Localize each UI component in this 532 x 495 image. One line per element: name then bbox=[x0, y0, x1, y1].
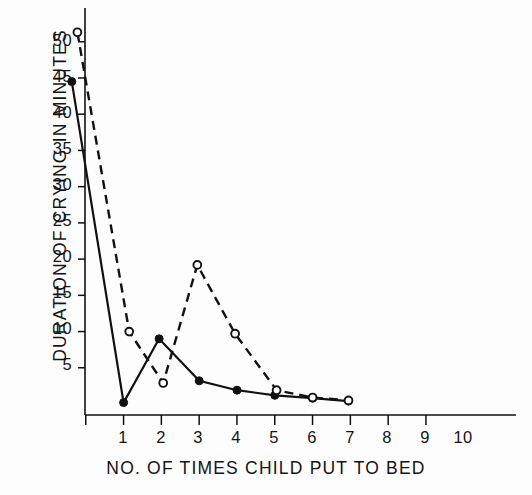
data-series-layer bbox=[68, 28, 353, 406]
y-axis-ticks bbox=[78, 42, 85, 368]
data-point-solid-filled-circles-2 bbox=[155, 335, 163, 343]
data-point-dashed-open-circles-2 bbox=[159, 379, 167, 387]
data-point-dashed-open-circles-4 bbox=[231, 330, 239, 338]
data-point-dashed-open-circles-1 bbox=[125, 328, 133, 336]
data-point-dashed-open-circles-0 bbox=[74, 28, 82, 36]
data-point-dashed-open-circles-7 bbox=[345, 397, 353, 405]
plot-area bbox=[0, 0, 532, 495]
chart-figure: DURATION OF CRYING IN MINUTES NO. OF TIM… bbox=[0, 0, 532, 495]
data-point-solid-filled-circles-4 bbox=[233, 386, 241, 394]
x-axis-ticks bbox=[86, 415, 426, 425]
data-point-solid-filled-circles-1 bbox=[120, 399, 128, 407]
data-point-solid-filled-circles-3 bbox=[195, 377, 203, 385]
data-point-dashed-open-circles-6 bbox=[309, 394, 317, 402]
series-line-dashed-open-circles bbox=[77, 32, 348, 400]
data-point-dashed-open-circles-5 bbox=[273, 386, 281, 394]
data-point-dashed-open-circles-3 bbox=[193, 261, 201, 269]
data-point-solid-filled-circles-0 bbox=[68, 78, 76, 86]
